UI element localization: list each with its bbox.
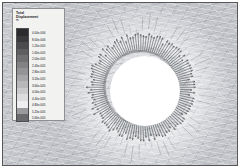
colorbar-tick-labels: 4.00e-0068.00e-0061.20e-0051.60e-0052.00… <box>32 28 45 122</box>
colorbar-tick-label: 3.20e-005 <box>32 76 45 83</box>
colorbar-swatch <box>17 114 28 121</box>
colorbar-tick-label: 4.00e-006 <box>32 30 45 37</box>
colorbar-tick-label: 4.80e-005 <box>32 102 45 109</box>
colorbar-tick-label: 1.20e-005 <box>32 43 45 50</box>
colorbar-tick-label: 2.00e-005 <box>32 56 45 63</box>
colorbar-tick-label: 4.00e-005 <box>32 89 45 96</box>
legend-body: 4.00e-0068.00e-0061.20e-0051.60e-0052.00… <box>16 28 63 122</box>
circular-hole <box>110 56 180 126</box>
legend-unit: m <box>13 19 64 24</box>
colorbar-swatches <box>16 28 29 122</box>
plot-frame: Total Displacement m 4.00e-0068.00e-0061… <box>2 2 238 166</box>
colorbar-tick-label: 5.60e-005 <box>32 115 45 122</box>
colorbar-legend: Total Displacement m 4.00e-0068.00e-0061… <box>12 8 65 121</box>
fea-displacement-plot: Total Displacement m 4.00e-0068.00e-0061… <box>0 0 240 168</box>
